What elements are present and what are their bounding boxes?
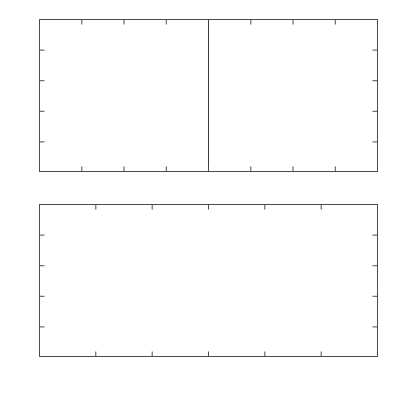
chart-panel-top: [0, 0, 398, 197]
bottom-x-tickmarks: [40, 205, 378, 357]
top-plot-svg: [0, 0, 398, 197]
chart-panel-bottom: [0, 190, 398, 397]
figure-container: [0, 0, 398, 397]
bottom-plot-svg: [0, 190, 398, 397]
bottom-y-tickmarks: [40, 235, 378, 327]
bottom-plot-frame: [40, 205, 378, 357]
